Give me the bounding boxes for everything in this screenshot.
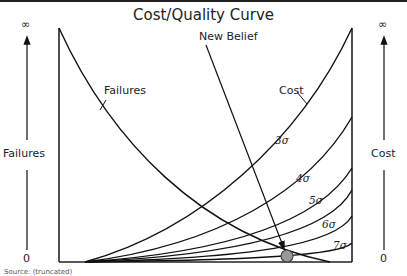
sigma-4-label: 4σ (296, 172, 310, 184)
sigma-7-label: 7σ (333, 239, 347, 251)
sigma-5-label: 5σ (309, 194, 323, 206)
source-note: Source: (truncated) (4, 268, 72, 276)
sigma-3-label: 3σ (275, 134, 289, 146)
failures-curve (59, 28, 330, 262)
optimum-point-marker (281, 250, 293, 262)
failures-curve-label: Failures (104, 84, 146, 97)
right-axis-bottom-label: 0 (380, 252, 387, 265)
right-axis-label: Cost (371, 147, 395, 160)
sigma-6-label: 6σ (322, 218, 336, 230)
right-axis-top-label: ∞ (378, 18, 387, 31)
cost-curve-label: Cost (279, 84, 303, 97)
left-axis-top-label: ∞ (21, 18, 30, 31)
plot-frame (59, 28, 352, 262)
left-axis-bottom-label: 0 (23, 252, 30, 265)
new-belief-label: New Belief (199, 30, 258, 43)
left-axis-label: Failures (3, 147, 45, 160)
